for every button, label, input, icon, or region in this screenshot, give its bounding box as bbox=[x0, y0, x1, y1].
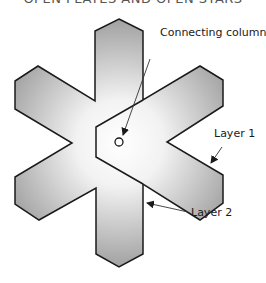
connecting-column-icon bbox=[115, 138, 123, 146]
star-diagram bbox=[0, 0, 266, 283]
layer1-arrow bbox=[211, 147, 222, 163]
connecting-column-label: Connecting column bbox=[160, 26, 266, 39]
layer2-label: Layer 2 bbox=[191, 206, 232, 219]
layer1-label: Layer 1 bbox=[214, 127, 255, 140]
